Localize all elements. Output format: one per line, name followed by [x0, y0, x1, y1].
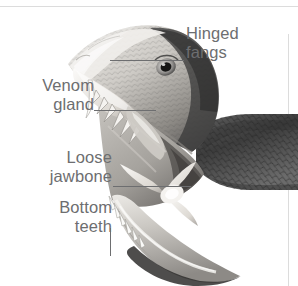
callout-label-hinged-fangs: Hinged fangs: [186, 24, 282, 62]
leader-line-hinged-fangs: [110, 60, 184, 61]
top-divider-rule: [0, 6, 298, 7]
callout-label-venom-gland: Venom gland: [10, 76, 94, 114]
snake-anatomy-figure: Hinged fangs Venom gland Loose jawbone B…: [0, 0, 298, 286]
leader-line-loose-jawbone: [113, 186, 191, 187]
leader-line-bottom-teeth: [110, 228, 111, 256]
callout-label-bottom-teeth: Bottom teeth: [8, 198, 112, 236]
leader-line-venom-gland: [94, 110, 156, 111]
callout-label-loose-jawbone: Loose jawbone: [8, 148, 112, 186]
